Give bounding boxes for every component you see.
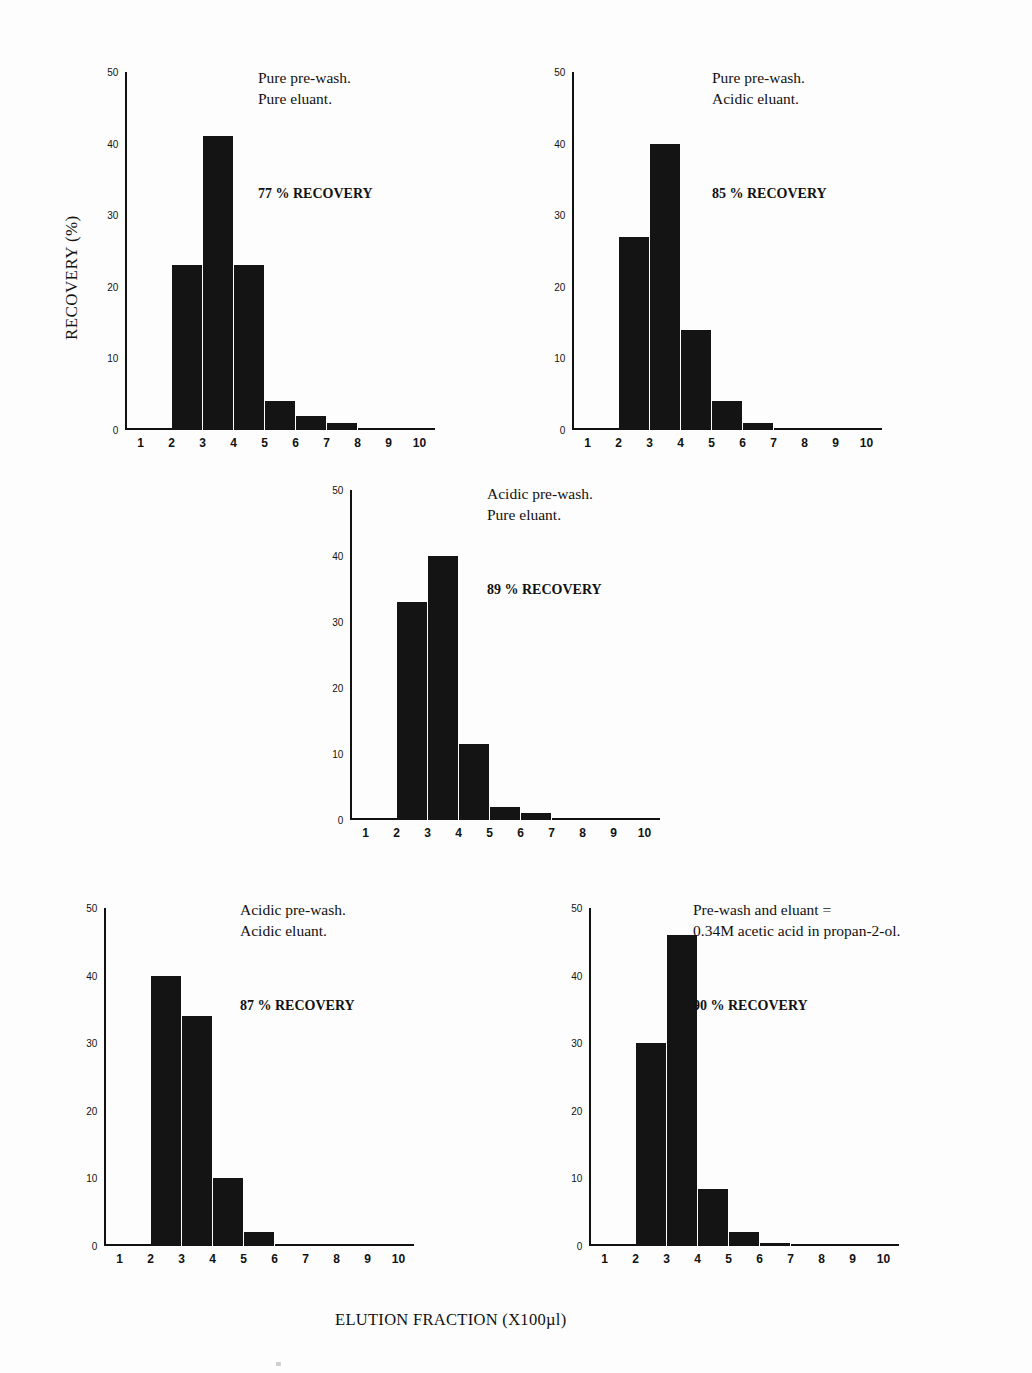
x-axis-tick-label: 9 <box>385 436 392 450</box>
y-axis-tick-label: 20 <box>571 1105 582 1116</box>
x-axis-tick-label: 2 <box>168 436 175 450</box>
x-axis-tick-label: 3 <box>663 1252 670 1266</box>
plot-area-5: 0102030405012345678910 <box>589 908 899 1246</box>
x-axis-tick-label: 9 <box>849 1252 856 1266</box>
bar <box>327 423 358 430</box>
bar <box>172 265 203 430</box>
chart-caption-5: Pre-wash and eluant = 0.34M acetic acid … <box>693 900 900 942</box>
y-axis-tick-label: 0 <box>560 425 565 436</box>
y-axis-tick-label: 20 <box>554 281 565 292</box>
bar <box>397 602 428 820</box>
chart-panel-4: RECOVERY (%) 0102030405012345678910 Acid… <box>0 880 500 1300</box>
x-axis-tick-label: 5 <box>261 436 268 450</box>
recovery-annotation-5: 90 % RECOVERY <box>693 998 808 1014</box>
plot-area-3: 0102030405012345678910 <box>350 490 660 820</box>
x-axis-tick-label: 8 <box>801 436 808 450</box>
x-axis-tick-label: 8 <box>818 1252 825 1266</box>
x-axis-tick-label: 3 <box>646 436 653 450</box>
y-axis-tick-label: 30 <box>332 617 343 628</box>
y-axis-tick-label: 50 <box>571 903 582 914</box>
x-axis-tick-label: 1 <box>116 1252 123 1266</box>
x-axis-tick-label: 6 <box>271 1252 278 1266</box>
recovery-annotation-3: 89 % RECOVERY <box>487 582 602 598</box>
scan-artifact <box>276 1362 281 1366</box>
x-axis-tick-label: 4 <box>209 1252 216 1266</box>
y-axis-tick-label: 20 <box>86 1105 97 1116</box>
x-axis-tick-label: 7 <box>548 826 555 840</box>
y-axis-tick-label: 0 <box>338 815 343 826</box>
x-axis-tick-label: 1 <box>584 436 591 450</box>
y-axis-tick-label: 20 <box>107 281 118 292</box>
y-axis-tick-label: 30 <box>86 1038 97 1049</box>
bar <box>743 423 774 430</box>
y-axis-tick-label: 30 <box>107 210 118 221</box>
y-axis-tick-label: 40 <box>332 551 343 562</box>
bar <box>760 1243 791 1246</box>
bar <box>182 1016 213 1246</box>
x-axis-tick-label: 10 <box>638 826 651 840</box>
y-axis-tick-label: 30 <box>554 210 565 221</box>
bar <box>636 1043 667 1246</box>
y-axis-tick-label: 0 <box>113 425 118 436</box>
bar <box>459 744 490 820</box>
x-axis-tick-label: 1 <box>601 1252 608 1266</box>
y-axis-tick-label: 40 <box>571 970 582 981</box>
y-axis-tick-label: 50 <box>107 67 118 78</box>
plot-area-2: 0102030405012345678910 <box>572 72 882 430</box>
y-axis-tick-label: 50 <box>554 67 565 78</box>
recovery-annotation-1: 77 % RECOVERY <box>258 186 373 202</box>
chart-panel-3: 0102030405012345678910 Acidic pre-wash. … <box>290 470 810 870</box>
x-axis-tick-label: 10 <box>877 1252 890 1266</box>
y-axis-tick-label: 20 <box>332 683 343 694</box>
x-axis-tick-label: 4 <box>230 436 237 450</box>
bar <box>712 401 743 430</box>
plot-area-4: 0102030405012345678910 <box>104 908 414 1246</box>
x-axis-tick-label: 1 <box>137 436 144 450</box>
x-axis-tick-label: 10 <box>413 436 426 450</box>
x-axis-tick-label: 3 <box>178 1252 185 1266</box>
bar <box>619 237 650 430</box>
bar <box>650 144 681 430</box>
bar <box>490 807 521 820</box>
bar <box>681 330 712 430</box>
chart-panel-1: RECOVERY (%) 0102030405012345678910 Pure… <box>0 0 500 470</box>
bar <box>521 813 552 820</box>
y-axis-line <box>104 908 106 1246</box>
x-axis-tick-label: 3 <box>424 826 431 840</box>
y-axis-line <box>589 908 591 1246</box>
y-axis-tick-label: 40 <box>86 970 97 981</box>
bar <box>265 401 296 430</box>
y-axis-tick-label: 0 <box>577 1241 582 1252</box>
y-axis-tick-label: 40 <box>554 138 565 149</box>
bar <box>244 1232 275 1246</box>
x-axis-tick-label: 6 <box>756 1252 763 1266</box>
x-axis-tick-label: 2 <box>632 1252 639 1266</box>
y-axis-line <box>125 72 127 430</box>
bar <box>234 265 265 430</box>
x-axis-tick-label: 2 <box>147 1252 154 1266</box>
y-axis-tick-label: 10 <box>86 1173 97 1184</box>
chart-caption-3: Acidic pre-wash. Pure eluant. <box>487 484 593 526</box>
x-axis-tick-label: 3 <box>199 436 206 450</box>
y-axis-line <box>350 490 352 820</box>
x-axis-tick-label: 7 <box>787 1252 794 1266</box>
x-axis-tick-label: 9 <box>610 826 617 840</box>
y-axis-tick-label: 50 <box>332 485 343 496</box>
x-axis-tick-label: 5 <box>725 1252 732 1266</box>
y-axis-tick-label: 0 <box>92 1241 97 1252</box>
y-axis-tick-label: 10 <box>332 749 343 760</box>
x-axis-tick-label: 9 <box>364 1252 371 1266</box>
y-axis-tick-label: 10 <box>554 353 565 364</box>
bar <box>203 136 234 430</box>
y-axis-label-1: RECOVERY (%) <box>62 215 82 340</box>
bar <box>729 1232 760 1246</box>
x-axis-tick-label: 9 <box>832 436 839 450</box>
x-axis-tick-label: 4 <box>455 826 462 840</box>
x-axis-tick-label: 1 <box>362 826 369 840</box>
chart-panel-2: 0102030405012345678910 Pure pre-wash. Ac… <box>500 0 1032 470</box>
x-axis-tick-label: 8 <box>579 826 586 840</box>
x-axis-tick-label: 6 <box>292 436 299 450</box>
x-axis-tick-label: 7 <box>323 436 330 450</box>
x-axis-tick-label: 6 <box>517 826 524 840</box>
x-axis-label: ELUTION FRACTION (X100µl) <box>335 1310 566 1330</box>
